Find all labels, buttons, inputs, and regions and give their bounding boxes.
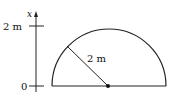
axis-arrow-icon: [34, 11, 38, 17]
tick-label-2m: 2 m: [3, 21, 23, 32]
diagram-canvas: x 2 m 0 2 m: [0, 0, 179, 97]
semicircle-diagram: x 2 m 0 2 m: [0, 0, 179, 97]
tick-label-0: 0: [21, 81, 27, 92]
semicircle-arc: [52, 29, 166, 86]
axis-label: x: [27, 9, 32, 19]
radius-line: [67, 46, 108, 86]
radius-label: 2 m: [87, 53, 107, 64]
center-dot: [106, 84, 110, 88]
